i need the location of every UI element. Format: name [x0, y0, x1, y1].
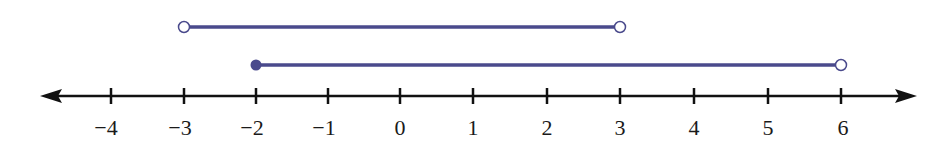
- tick-label: −1: [312, 115, 335, 140]
- tick-labels: −4 −3 −2 −1 0 1 2 3 4 5 6: [94, 115, 848, 140]
- open-endpoint-icon: [179, 22, 190, 33]
- tick-label: 0: [395, 115, 406, 140]
- tick-label: 4: [689, 115, 700, 140]
- number-line-diagram: −4 −3 −2 −1 0 1 2 3 4 5 6: [0, 0, 946, 144]
- tick-label: 3: [615, 115, 626, 140]
- tick-label: −4: [94, 115, 117, 140]
- closed-endpoint-icon: [251, 60, 262, 71]
- interval-lower: [251, 60, 847, 71]
- open-endpoint-icon: [836, 60, 847, 71]
- tick-label: 5: [763, 115, 774, 140]
- tick-label: 2: [542, 115, 553, 140]
- tick-label: 6: [838, 115, 849, 140]
- interval-upper: [179, 22, 626, 33]
- open-endpoint-icon: [615, 22, 626, 33]
- tick-label: −3: [168, 115, 191, 140]
- tick-label: −2: [240, 115, 263, 140]
- tick-label: 1: [468, 115, 479, 140]
